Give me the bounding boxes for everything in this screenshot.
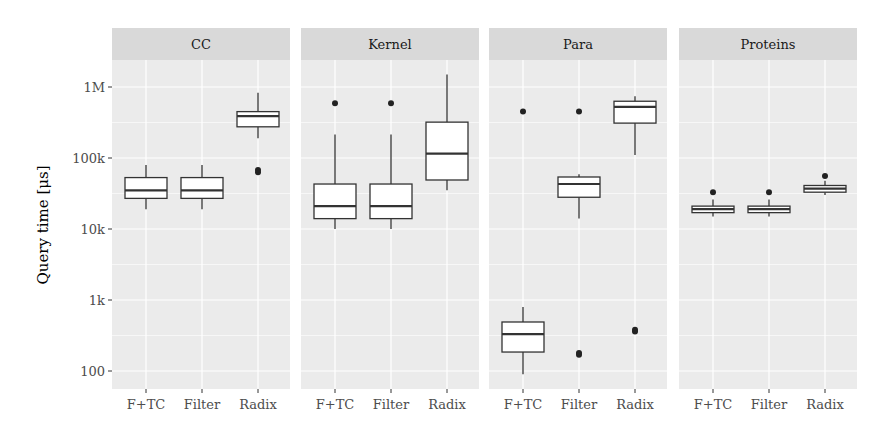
outlier-point — [255, 167, 261, 173]
outlier-point — [520, 109, 526, 115]
outlier-point — [822, 173, 828, 179]
panel-kernel: KernelF+TCFilterRadix — [301, 28, 479, 412]
box-iqr — [502, 322, 544, 352]
y-tick-label: 100k — [72, 151, 105, 166]
x-tick-label: F+TC — [316, 397, 355, 412]
box-iqr — [370, 184, 412, 219]
outlier-point — [576, 109, 582, 115]
x-tick-label: Radix — [806, 397, 844, 412]
outlier-point — [766, 189, 772, 195]
x-tick-label: Filter — [561, 397, 598, 412]
box-iqr — [237, 112, 279, 127]
x-tick-label: Radix — [428, 397, 466, 412]
box-iqr — [125, 178, 167, 199]
outlier-point — [576, 350, 582, 356]
y-tick-label: 1M — [83, 80, 105, 95]
x-tick-label: Filter — [751, 397, 788, 412]
y-axis-title: Query time [μs] — [34, 165, 52, 284]
facet-label: Proteins — [741, 37, 796, 52]
panel-proteins: ProteinsF+TCFilterRadix — [679, 28, 857, 412]
x-tick-label: F+TC — [504, 397, 543, 412]
y-tick-label: 10k — [81, 222, 106, 237]
x-tick-label: Radix — [616, 397, 654, 412]
outlier-point — [388, 100, 394, 106]
box-iqr — [181, 178, 223, 199]
panel-background — [679, 60, 857, 389]
panel-background — [112, 60, 290, 389]
x-tick-label: Radix — [239, 397, 277, 412]
y-axis: 1001k10k100k1M — [72, 80, 112, 379]
box-iqr — [314, 184, 356, 219]
facet-panels: CCF+TCFilterRadixKernelF+TCFilterRadixPa… — [112, 28, 857, 412]
x-tick-label: F+TC — [127, 397, 166, 412]
facet-label: Kernel — [368, 37, 412, 52]
y-tick-label: 1k — [89, 293, 105, 308]
facet-label: CC — [191, 37, 211, 52]
facet-label: Para — [563, 37, 593, 52]
boxplot-chart: Query time [μs] 1001k10k100k1M CCF+TCFil… — [0, 0, 895, 436]
box-iqr — [558, 177, 600, 197]
x-tick-label: Filter — [184, 397, 221, 412]
panel-para: ParaF+TCFilterRadix — [489, 28, 667, 412]
outlier-point — [632, 327, 638, 333]
outlier-point — [710, 189, 716, 195]
box-iqr — [426, 122, 468, 180]
box-iqr — [614, 101, 656, 123]
panel-cc: CCF+TCFilterRadix — [112, 28, 290, 412]
outlier-point — [332, 100, 338, 106]
y-tick-label: 100 — [80, 364, 105, 379]
panel-background — [301, 60, 479, 389]
x-tick-label: Filter — [373, 397, 410, 412]
x-tick-label: F+TC — [694, 397, 733, 412]
